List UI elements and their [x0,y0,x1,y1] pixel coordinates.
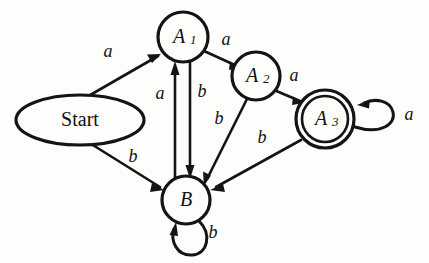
node-label-start: Start [61,108,99,130]
edge-label-start-a1: a [104,41,113,61]
node-a1[interactable]: A 1 [158,12,208,62]
edge-label-a3-b: b [258,127,267,147]
edge-start-to-b[interactable]: b [88,142,164,192]
node-label-a2: A [244,64,259,86]
diagram-canvas: a b a a b a [0,0,429,263]
node-a3[interactable]: A 3 [296,90,354,148]
edge-label-a1-b: b [198,81,207,101]
edge-b-to-a1[interactable]: a [156,61,180,196]
edge-label-a1-a2: a [222,29,231,49]
edge-start-to-a1[interactable]: a [85,41,161,98]
edge-line-start-b [88,142,160,187]
edge-line-a2-b [207,99,247,179]
edge-label-b-self: b [209,222,218,242]
node-start[interactable]: Start [16,95,144,145]
edge-line-start-a1 [85,56,158,98]
edge-a1-to-b[interactable]: b [186,62,207,179]
node-a2[interactable]: A 2 [232,52,280,100]
edge-a3-to-b[interactable]: b [210,127,301,192]
arrowhead-b-self [170,222,179,236]
node-label-a1: A [171,25,186,47]
node-label-a3: A [313,107,328,129]
edge-label-a2-a3: a [290,65,299,85]
arrowhead-a3-self [357,100,370,109]
node-label-a1-subscript: 1 [190,32,197,47]
node-label-b: B [180,188,192,210]
node-b[interactable]: B [162,176,210,224]
edge-label-a3-self: a [405,104,414,124]
edge-a3-self-loop[interactable]: a [355,100,414,130]
node-label-a3-subscript: 3 [331,114,339,129]
edge-line-b-self [173,221,207,255]
edge-label-b-a1: a [156,83,165,103]
edge-b-self-loop[interactable]: b [170,221,218,255]
node-label-a2-subscript: 2 [263,71,270,86]
edge-label-a2-b: b [215,108,224,128]
edge-label-start-b: b [129,146,138,166]
state-machine-diagram: a b a a b a [0,0,429,263]
